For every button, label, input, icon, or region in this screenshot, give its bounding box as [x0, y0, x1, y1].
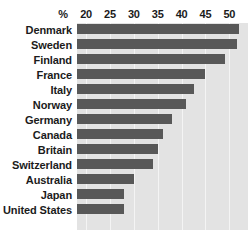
x-axis-tick-label: 45 — [200, 8, 212, 21]
chart-row: Finland — [0, 53, 252, 68]
x-axis-tick-label: 30 — [128, 8, 140, 21]
chart-row: Switzerland — [0, 158, 252, 173]
category-label: France — [0, 69, 72, 81]
category-label: Germany — [0, 114, 72, 126]
bar — [77, 24, 239, 34]
bar — [77, 99, 186, 109]
category-label: Italy — [0, 84, 72, 96]
chart-row: Denmark — [0, 23, 252, 38]
category-label: Switzerland — [0, 159, 72, 171]
bar-chart: % 20253035404550 DenmarkSwedenFinlandFra… — [0, 0, 252, 238]
category-label: Australia — [0, 174, 72, 186]
category-label: Norway — [0, 99, 72, 111]
x-axis-tick-label: 25 — [104, 8, 116, 21]
category-label: Canada — [0, 129, 72, 141]
category-label: Sweden — [0, 39, 72, 51]
chart-row: France — [0, 68, 252, 83]
chart-row: Norway — [0, 98, 252, 113]
category-label: Japan — [0, 189, 72, 201]
bar — [77, 159, 153, 169]
x-axis-tick-label: 50 — [223, 8, 235, 21]
chart-row: Sweden — [0, 38, 252, 53]
bar — [77, 189, 124, 199]
bar — [77, 69, 205, 79]
bar — [77, 114, 172, 124]
chart-row: United States — [0, 203, 252, 218]
chart-row: Britain — [0, 143, 252, 158]
x-axis-tick-label: 40 — [176, 8, 188, 21]
chart-row: Australia — [0, 173, 252, 188]
x-axis-tick-label: 35 — [152, 8, 164, 21]
bar — [77, 144, 158, 154]
chart-row: Germany — [0, 113, 252, 128]
bar-rows: DenmarkSwedenFinlandFranceItalyNorwayGer… — [0, 23, 252, 230]
chart-row: Japan — [0, 188, 252, 203]
category-label: United States — [0, 204, 72, 216]
x-axis-unit-label: % — [58, 8, 68, 21]
bar — [77, 174, 134, 184]
chart-row: Canada — [0, 128, 252, 143]
category-label: Finland — [0, 54, 72, 66]
bar — [77, 129, 163, 139]
category-label: Britain — [0, 144, 72, 156]
category-label: Denmark — [0, 24, 72, 36]
bar — [77, 39, 237, 49]
bar — [77, 204, 124, 214]
x-axis: % 20253035404550 — [0, 8, 252, 22]
bar — [77, 54, 225, 64]
chart-row: Italy — [0, 83, 252, 98]
bar — [77, 84, 194, 94]
x-axis-tick-label: 20 — [80, 8, 92, 21]
